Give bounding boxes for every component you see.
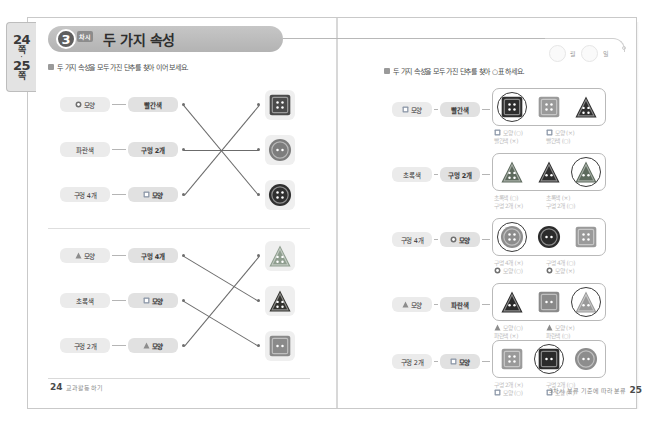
day-label: 일 bbox=[603, 49, 609, 58]
triangle-button-green-4holes[interactable] bbox=[265, 241, 295, 271]
circle-button-dark-2holes[interactable] bbox=[533, 221, 565, 253]
day-input-circle[interactable] bbox=[581, 45, 598, 62]
note-text: 모양 (×) bbox=[555, 266, 574, 275]
row4-option-box bbox=[492, 340, 606, 378]
row2-condition-a: 구멍 4개 bbox=[392, 232, 432, 247]
condition-connector bbox=[434, 239, 438, 240]
row2-condition-b: 모양 bbox=[440, 232, 480, 247]
right-page-number: 25 bbox=[629, 385, 642, 395]
square-button-dark-2holes[interactable] bbox=[533, 343, 565, 375]
triangle-button-dark-2holes[interactable] bbox=[533, 156, 565, 188]
top-group-chip-b-1: 구멍 2개 bbox=[128, 142, 178, 157]
row0-condition-b: 빨간색 bbox=[440, 102, 480, 117]
condition-label: 구멍 2개 bbox=[401, 357, 424, 367]
chip-connector bbox=[112, 345, 126, 346]
condition-label: 모양 bbox=[459, 235, 470, 245]
note-text: 파란색 (○) bbox=[546, 331, 570, 340]
chip-connector bbox=[112, 194, 126, 195]
row4-condition-a: 구멍 2개 bbox=[392, 354, 432, 369]
row4-condition-b: 모양 bbox=[440, 354, 480, 369]
triangle-button-dark-2holes[interactable] bbox=[496, 286, 528, 318]
condition-connector bbox=[482, 361, 490, 362]
chip-connector bbox=[112, 255, 126, 256]
square-button-4holes[interactable] bbox=[265, 90, 295, 120]
left-footer: 24 교과활동 하기 bbox=[50, 382, 103, 392]
top-group-chip-a-1: 파란색 bbox=[60, 142, 110, 157]
answer-circle-mark bbox=[534, 344, 564, 374]
square-button-gray-4holes[interactable] bbox=[533, 91, 565, 123]
date-field[interactable]: 월 일 bbox=[545, 44, 631, 64]
circle-button-4holes[interactable] bbox=[265, 180, 295, 210]
page-range-tab: 24 쪽 · 25 쪽 bbox=[6, 22, 36, 92]
triangle-button-green-2holes[interactable] bbox=[570, 156, 602, 188]
banner-tail-line bbox=[283, 38, 553, 39]
condition-label: 모양 bbox=[411, 105, 422, 115]
row3-condition-a: 모양 bbox=[392, 297, 432, 312]
triangle-button-dark-4holes[interactable] bbox=[265, 286, 295, 316]
condition-connector bbox=[482, 239, 490, 240]
chip-label: 구멍 2개 bbox=[74, 341, 97, 351]
chip-label: 빨간색 bbox=[144, 100, 161, 110]
lesson-sub-label: 차시 bbox=[77, 31, 93, 42]
bottom-group-chip-a-1: 초록색 bbox=[60, 293, 110, 308]
page-gutter bbox=[336, 18, 338, 408]
bottom-group-chip-b-1: 모양 bbox=[128, 293, 178, 308]
note-text: 빨간색 (×) bbox=[494, 136, 518, 145]
left-instruction-text: 두 가지 속성을 모두 가진 단추를 찾아 이어 보세요. bbox=[57, 62, 188, 72]
row3-note-0-line2: 파란색 (×) bbox=[494, 331, 518, 340]
top-group-chip-b-2: 모양 bbox=[128, 187, 178, 202]
row1-option-box bbox=[492, 153, 606, 191]
lesson-number-badge: 3 bbox=[56, 29, 76, 49]
condition-connector bbox=[434, 304, 438, 305]
row1-note-0-line2: 구멍 2개 (×) bbox=[494, 201, 523, 210]
bottom-group-chip-b-0: 구멍 4개 bbox=[128, 248, 178, 263]
circle-button-2holes[interactable] bbox=[265, 135, 295, 165]
note-text: 모양 (○) bbox=[503, 266, 523, 275]
top-group-chip-b-0: 빨간색 bbox=[128, 97, 178, 112]
right-instruction-text: 두 가지 속성을 모두 가진 단추를 찾아 ○표 하세요. bbox=[393, 66, 524, 76]
section-divider bbox=[48, 228, 310, 229]
note-text: 구멍 2개 (×) bbox=[494, 201, 523, 210]
chip-connector bbox=[112, 149, 126, 150]
condition-label: 초록색 bbox=[403, 170, 420, 180]
square-button-2holes[interactable] bbox=[265, 331, 295, 361]
chip-label: 구멍 2개 bbox=[141, 145, 164, 155]
bottom-group-chip-a-0: 모양 bbox=[60, 248, 110, 263]
row0-note-0-line2: 빨간색 (×) bbox=[494, 136, 518, 145]
square-button-red-4holes[interactable] bbox=[496, 91, 528, 123]
month-input-circle[interactable] bbox=[549, 45, 566, 62]
row4-note-0-line2: 모양 (○) bbox=[494, 388, 523, 397]
condition-connector bbox=[482, 109, 490, 110]
circle-button-gray-4holes[interactable] bbox=[496, 221, 528, 253]
condition-connector bbox=[482, 304, 490, 305]
chip-label: 모양 bbox=[152, 296, 163, 306]
note-text: 파란색 (×) bbox=[494, 331, 518, 340]
bottom-group-chip-a-2: 구멍 2개 bbox=[60, 338, 110, 353]
triangle-button-dark-4holes[interactable] bbox=[570, 91, 602, 123]
tab-page-b: 25 bbox=[13, 59, 30, 72]
square-button-gray-4holes[interactable] bbox=[496, 343, 528, 375]
triangle-button-green-4holes[interactable] bbox=[496, 156, 528, 188]
row0-option-box bbox=[492, 88, 606, 126]
note-text: 빨간색 (○) bbox=[546, 136, 570, 145]
row1-condition-b: 구멍 2개 bbox=[440, 167, 480, 182]
left-footer-text: 교과활동 하기 bbox=[66, 383, 104, 392]
chip-label: 모양 bbox=[84, 251, 95, 261]
row1-note-1-line2: 구멍 2개 (○) bbox=[546, 201, 575, 210]
condition-label: 빨간색 bbox=[451, 105, 468, 115]
triangle-button-gray-2holes[interactable] bbox=[570, 286, 602, 318]
square-button-gray-4holes[interactable] bbox=[570, 221, 602, 253]
square-button-gray-2holes[interactable] bbox=[533, 286, 565, 318]
condition-connector bbox=[434, 109, 438, 110]
row2-note-0-line2: 모양 (○) bbox=[494, 266, 523, 275]
left-page-number: 24 bbox=[50, 382, 63, 392]
condition-connector bbox=[482, 174, 490, 175]
row3-option-box bbox=[492, 283, 606, 321]
top-group-chip-a-2: 구멍 4개 bbox=[60, 187, 110, 202]
bullet-square-icon bbox=[48, 64, 54, 70]
condition-label: 구멍 4개 bbox=[401, 235, 424, 245]
date-nub-icon bbox=[622, 46, 626, 50]
row2-note-1-line2: 모양 (×) bbox=[546, 266, 574, 275]
note-text: 모양 (○) bbox=[503, 388, 523, 397]
circle-button-gray-2holes[interactable] bbox=[570, 343, 602, 375]
